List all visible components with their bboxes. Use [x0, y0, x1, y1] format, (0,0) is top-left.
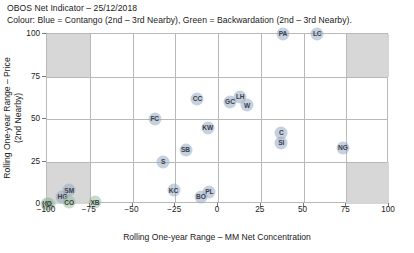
y-tickmark	[42, 33, 46, 34]
data-point-sb[interactable]: SB	[179, 143, 192, 156]
data-point-label: FC	[150, 116, 159, 123]
data-point-ng[interactable]: NG	[336, 141, 349, 154]
plot-area: PALCCCLHGCWFCKWCSINGSBSKCPLBOXBSMHGCOCLH…	[46, 33, 388, 203]
data-point-gc[interactable]: GC	[223, 96, 236, 109]
data-point-label: BO	[196, 194, 206, 201]
x-tick-label: 0	[215, 205, 220, 214]
chart-subtitle: Colour: Blue = Contango (2nd – 3rd Nearb…	[7, 15, 411, 27]
data-point-cc[interactable]: CC	[191, 92, 204, 105]
data-point-label: SB	[181, 146, 190, 153]
data-point-lc[interactable]: LC	[311, 28, 324, 41]
x-tick-label: −25	[167, 205, 181, 214]
x-tick-label: −75	[82, 205, 96, 214]
data-point-kc[interactable]: KC	[167, 184, 180, 197]
x-tick-label: 100	[381, 205, 395, 214]
y-tick-label: 0	[35, 199, 40, 208]
data-point-w[interactable]: W	[241, 99, 254, 112]
data-point-label: NG	[338, 145, 348, 152]
y-tick-label: 50	[31, 114, 40, 123]
x-tick-label: 50	[298, 205, 307, 214]
data-point-label: KW	[202, 124, 213, 131]
chart-title: OBOS Net Indicator – 25/12/2018	[7, 3, 411, 15]
chart-root: OBOS Net Indicator – 25/12/2018 Colour: …	[0, 0, 414, 253]
data-point-label: C	[279, 129, 284, 136]
data-point-label: CC	[193, 95, 202, 102]
y-tick-label: 75	[31, 71, 40, 80]
y-tick-label: 25	[31, 156, 40, 165]
data-point-label: CO	[64, 199, 74, 206]
data-points-layer: PALCCCLHGCWFCKWCSINGSBSKCPLBOXBSMHGCOCLH…	[47, 34, 387, 202]
x-tick-label: 25	[255, 205, 264, 214]
data-point-label: LC	[313, 31, 322, 38]
data-point-si[interactable]: SI	[275, 136, 288, 149]
data-point-kw[interactable]: KW	[201, 121, 214, 134]
data-point-label: KC	[169, 187, 178, 194]
data-point-s[interactable]: S	[157, 155, 170, 168]
y-tick-label: 100	[26, 29, 40, 38]
data-point-fc[interactable]: FC	[148, 113, 161, 126]
data-point-bo[interactable]: BO	[194, 191, 207, 204]
y-tickmark	[42, 118, 46, 119]
chart-header: OBOS Net Indicator – 25/12/2018 Colour: …	[7, 3, 411, 26]
y-tickmark	[42, 76, 46, 77]
y-tickmark	[42, 203, 46, 204]
data-point-label: SI	[278, 140, 284, 147]
y-tickmark	[42, 161, 46, 162]
x-axis-title: Rolling One-year Range – MM Net Concentr…	[46, 232, 388, 242]
data-point-label: W	[244, 102, 250, 109]
data-point-label: GC	[225, 99, 235, 106]
data-point-pa[interactable]: PA	[276, 28, 289, 41]
x-tick-label: 75	[341, 205, 350, 214]
data-point-label: PA	[279, 31, 287, 38]
y-axis-title: Rolling One-year Range – Price(2nd Nearb…	[2, 57, 23, 178]
data-point-label: S	[161, 158, 165, 165]
data-point-co[interactable]: CO	[63, 196, 76, 209]
x-tick-label: −50	[125, 205, 139, 214]
y-axis-title-wrap: Rolling One-year Range – Price(2nd Nearb…	[0, 33, 24, 203]
